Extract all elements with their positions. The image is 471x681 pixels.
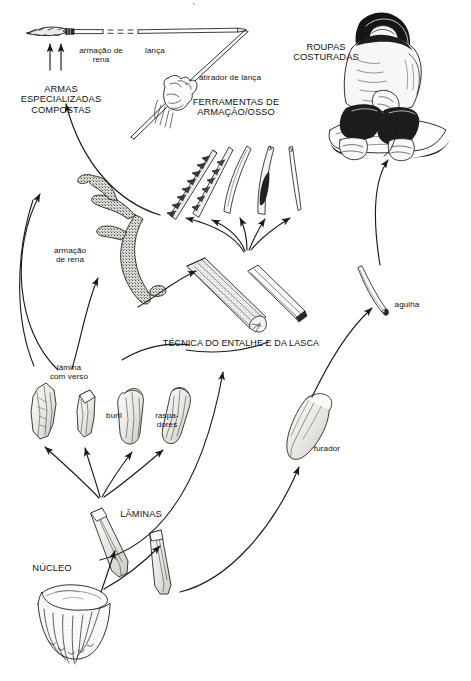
harpoon-head-with-shaft <box>27 27 246 36</box>
bone-needle <box>289 147 301 210</box>
blade-blank-lower <box>150 530 171 594</box>
label-needle: agulha <box>381 300 433 309</box>
prismatic-flint-core <box>38 585 110 664</box>
reindeer-antler <box>78 175 166 305</box>
label-backed-blade: lâmina com verso <box>34 363 104 381</box>
eyed-bone-point <box>258 146 274 214</box>
label-spear-thrower: atirador de lança <box>178 73 282 82</box>
label-spear: lança <box>133 46 177 55</box>
label-groove-splinter-technique: TÉCNICA DO ENTALHE E DA LASCA <box>145 338 337 348</box>
label-bone-tools: FERRAMENTAS DE ARMAÇÃO/OSSO <box>178 97 294 118</box>
diagram-canvas: armação de rena lança atirador de lança … <box>0 0 471 681</box>
label-composite-weapons: ARMAS ESPECIALIZADAS COMPOSTAS <box>6 84 116 115</box>
burin-tool <box>77 390 95 437</box>
label-scrapers: raspa- dores <box>145 411 189 429</box>
label-sewn-clothes: ROUPAS COSTURADAS <box>283 42 369 63</box>
label-antler-frame-mid: armação de rena <box>39 246 101 264</box>
backed-blade-tool <box>31 383 56 439</box>
label-core: NÚCLEO <box>23 563 81 573</box>
seated-figure-in-fur-parka <box>329 13 450 161</box>
label-antler-frame-top: armação de rena <box>60 46 142 64</box>
label-borer: furador <box>300 444 354 453</box>
label-burin: buril <box>98 411 130 420</box>
label-blades: LÂMINAS <box>110 509 172 519</box>
